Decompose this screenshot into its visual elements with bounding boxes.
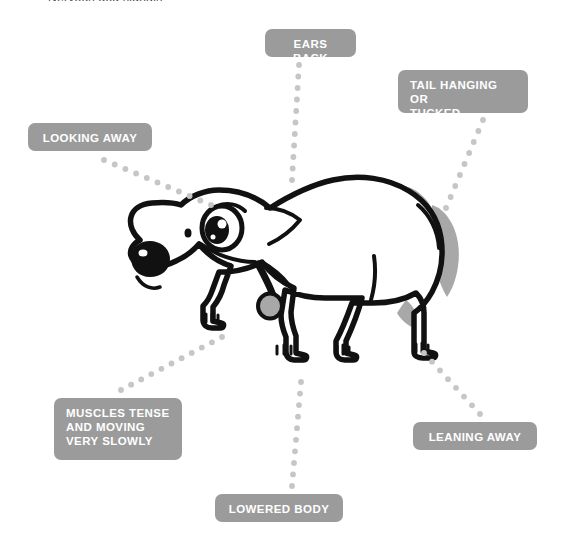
mouth-line: [137, 277, 160, 288]
callout-muscles-tense-and-moving-very-slowly[interactable]: MUSCLES TENSE AND MOVING VERY SLOWLY: [54, 398, 182, 460]
callout-leaning-away[interactable]: LEANING AWAY: [413, 422, 537, 450]
callout-tail-hanging-or-tucked[interactable]: TAIL HANGING OR TUCKED: [398, 70, 528, 113]
far-eye-mark: [185, 229, 192, 238]
callout-ears-back[interactable]: EARS BACK: [265, 29, 356, 57]
callout-lowered-body[interactable]: LOWERED BODY: [215, 494, 343, 522]
collar-tag: [258, 294, 282, 319]
dog-silhouette: [130, 177, 442, 360]
dog-eye: [202, 206, 242, 250]
dog-body-outline: [130, 177, 442, 360]
dog-nose: [131, 241, 170, 277]
diagram-canvas: Nervous dog signals: [0, 0, 571, 552]
dog-paw-toes: [206, 314, 428, 354]
callout-looking-away[interactable]: LOOKING AWAY: [28, 123, 152, 151]
nose-highlight: [139, 250, 148, 257]
